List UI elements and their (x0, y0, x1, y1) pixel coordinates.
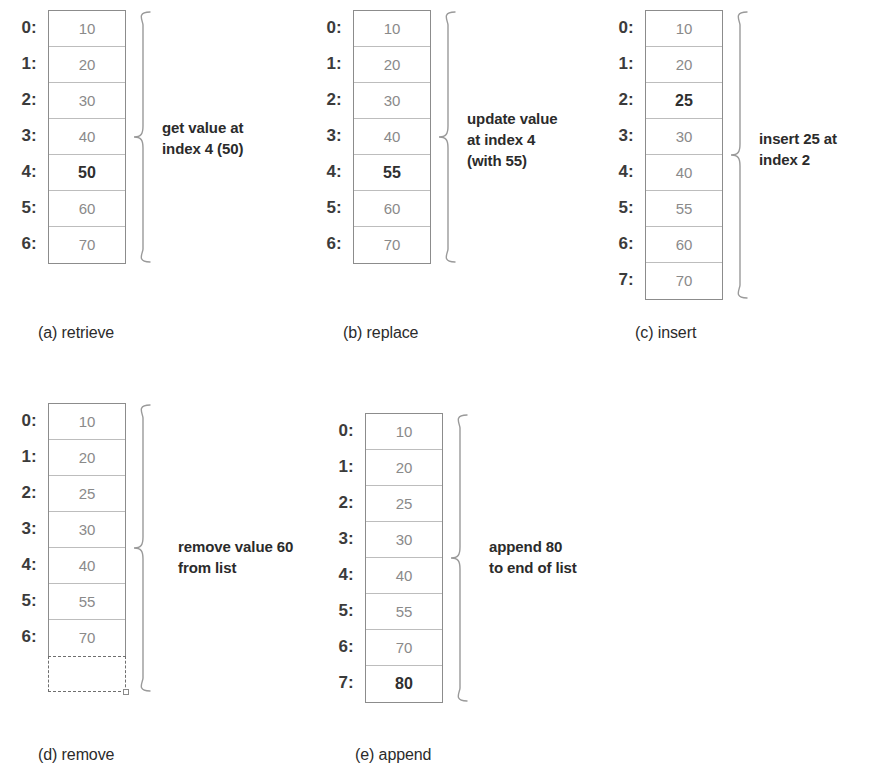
index-label: 0: (0, 403, 40, 439)
index-label: 2: (0, 475, 40, 511)
index-label: 3: (317, 521, 357, 557)
list-cell: 30 (49, 83, 125, 119)
index-label: 6: (597, 226, 637, 262)
index-label: 2: (305, 82, 345, 118)
caption-insert: (c) insert (635, 324, 696, 342)
index-label: 5: (317, 593, 357, 629)
index-label: 7: (597, 262, 637, 298)
list-cell: 40 (49, 548, 125, 584)
caption-replace: (b) replace (343, 324, 418, 342)
index-label: 4: (597, 154, 637, 190)
list-cell: 55 (646, 191, 722, 227)
list-cell: 70 (49, 620, 125, 656)
list-cell: 20 (366, 450, 442, 486)
index-label: 2: (317, 485, 357, 521)
index-label: 3: (0, 511, 40, 547)
list-cells: 10203040506070 (48, 10, 126, 264)
list-cell: 55 (366, 594, 442, 630)
list-cell: 10 (354, 11, 430, 47)
list-cell: 20 (49, 440, 125, 476)
index-label: 2: (597, 82, 637, 118)
list-cell: 10 (49, 404, 125, 440)
list-cells: 1020253040557080 (365, 413, 443, 703)
list-cell: 30 (354, 83, 430, 119)
list-cell: 20 (646, 47, 722, 83)
index-label: 1: (0, 46, 40, 82)
index-label: 1: (0, 439, 40, 475)
index-label: 7: (317, 665, 357, 701)
annotation-append: append 80 to end of list (489, 536, 577, 578)
list-cell: 25 (366, 486, 442, 522)
index-label: 1: (317, 449, 357, 485)
list-cell: 25 (49, 476, 125, 512)
list-cell: 20 (354, 47, 430, 83)
index-label: 3: (597, 118, 637, 154)
index-column: 0:1:2:3:4:5:6: (0, 403, 40, 655)
annotation-insert: insert 25 at index 2 (759, 128, 837, 170)
list-cell: 40 (354, 119, 430, 155)
index-label: 5: (0, 190, 40, 226)
index-column: 0:1:2:3:4:5:6: (305, 10, 345, 262)
curly-brace (729, 10, 751, 300)
index-label: 1: (597, 46, 637, 82)
caption-retrieve: (a) retrieve (38, 324, 114, 342)
list-cell-highlighted: 55 (354, 155, 430, 191)
caption-remove: (d) remove (38, 746, 114, 764)
list-cells: 10203040556070 (353, 10, 431, 264)
index-label: 2: (0, 82, 40, 118)
index-label: 6: (0, 619, 40, 655)
list-cells: 10202530405570 (48, 403, 126, 657)
list-cell: 55 (49, 584, 125, 620)
index-column: 0:1:2:3:4:5:6:7: (597, 10, 637, 298)
list-cell: 10 (646, 11, 722, 47)
annotation-replace: update value at index 4 (with 55) (467, 108, 558, 171)
index-label: 0: (597, 10, 637, 46)
index-label: 3: (305, 118, 345, 154)
index-label: 1: (305, 46, 345, 82)
index-label: 6: (305, 226, 345, 262)
index-label: 6: (317, 629, 357, 665)
annotation-retrieve: get value at index 4 (50) (162, 117, 243, 159)
index-label: 5: (305, 190, 345, 226)
list-cell: 70 (366, 630, 442, 666)
index-label: 4: (0, 547, 40, 583)
index-label: 3: (0, 118, 40, 154)
index-label: 6: (0, 226, 40, 262)
annotation-remove: remove value 60 from list (178, 536, 293, 578)
index-label: 4: (317, 557, 357, 593)
list-cell: 30 (646, 119, 722, 155)
index-label: 4: (305, 154, 345, 190)
curly-brace (449, 413, 471, 703)
list-cell: 70 (49, 227, 125, 263)
list-cell: 30 (49, 512, 125, 548)
index-column: 0:1:2:3:4:5:6: (0, 10, 40, 262)
curly-brace (132, 10, 154, 264)
list-cell: 20 (49, 47, 125, 83)
curly-brace (437, 10, 459, 264)
curly-brace (132, 403, 154, 693)
empty-removed-cell (48, 656, 126, 692)
index-column: 0:1:2:3:4:5:6:7: (317, 413, 357, 701)
list-cell: 40 (646, 155, 722, 191)
list-cell: 60 (354, 191, 430, 227)
list-cell: 70 (354, 227, 430, 263)
list-cell: 60 (49, 191, 125, 227)
index-label: 5: (597, 190, 637, 226)
list-cell: 70 (646, 263, 722, 299)
list-cell: 30 (366, 522, 442, 558)
list-cell: 10 (366, 414, 442, 450)
list-cell: 40 (366, 558, 442, 594)
list-cell-highlighted: 25 (646, 83, 722, 119)
index-label: 5: (0, 583, 40, 619)
list-cell: 10 (49, 11, 125, 47)
list-cells: 1020253040556070 (645, 10, 723, 300)
resize-handle[interactable] (123, 689, 129, 695)
index-label: 0: (305, 10, 345, 46)
caption-append: (e) append (355, 746, 431, 764)
list-cell-highlighted: 50 (49, 155, 125, 191)
list-cell: 40 (49, 119, 125, 155)
index-label: 0: (0, 10, 40, 46)
index-label: 4: (0, 154, 40, 190)
index-label: 0: (317, 413, 357, 449)
list-cell-highlighted: 80 (366, 666, 442, 702)
